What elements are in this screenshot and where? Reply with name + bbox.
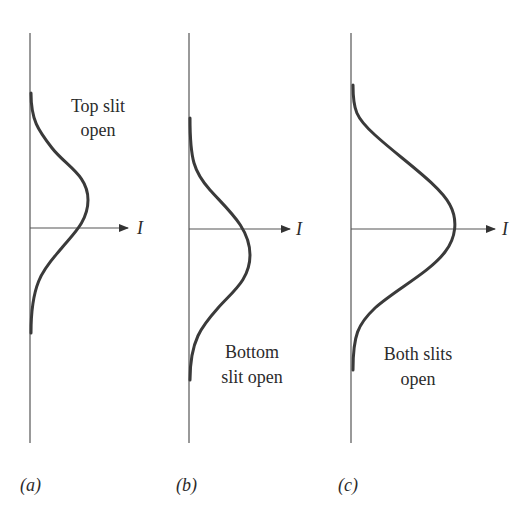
panel-b-label-line1: Bottom <box>225 342 279 362</box>
panel-a-label-line1: Top slit <box>71 96 125 116</box>
double-slit-intensity-figure: I Top slit open (a) I Bottom slit open (… <box>0 0 530 516</box>
panel-a-caption: (a) <box>20 475 41 496</box>
panel-c-label-line1: Both slits <box>384 344 453 364</box>
intensity-axis-label: I <box>136 218 144 238</box>
intensity-curve-bottom-slit <box>190 118 250 380</box>
panel-a-label-line2: open <box>81 120 116 140</box>
panel-b: I Bottom slit open (b) <box>176 33 303 496</box>
panel-b-caption: (b) <box>176 475 197 496</box>
panel-c: I Both slits open (c) <box>338 33 509 496</box>
panel-b-label-line2: slit open <box>221 367 283 387</box>
intensity-axis-label: I <box>501 219 509 239</box>
panel-a: I Top slit open (a) <box>20 33 144 496</box>
intensity-axis-label: I <box>295 219 303 239</box>
intensity-curve-both-slits <box>353 85 455 370</box>
panel-c-label-line2: open <box>401 369 436 389</box>
panel-c-caption: (c) <box>338 475 358 496</box>
intensity-curve-top-slit <box>31 93 88 333</box>
